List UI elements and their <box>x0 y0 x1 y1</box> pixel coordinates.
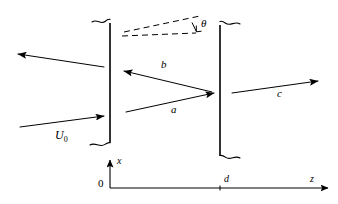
reflected-arrow-line <box>18 54 104 67</box>
physics-diagram: U0 b a c θ x z 0 <box>0 0 338 204</box>
arrow-c-label: c <box>277 87 282 99</box>
left-barrier <box>90 19 110 145</box>
dashed-lower-line <box>122 33 196 36</box>
right-barrier-top-break-icon <box>220 21 240 24</box>
reflected-arrow <box>18 54 104 67</box>
left-barrier-top-break-icon <box>92 19 110 22</box>
diagram-canvas: U0 b a c θ x z 0 <box>0 0 338 204</box>
x-axis-label: x <box>116 155 122 166</box>
z-axis-label: z <box>309 173 314 184</box>
incident-arrow-line <box>20 116 104 127</box>
d-position-label: d <box>224 173 230 184</box>
coordinate-axes: x z 0 d <box>98 155 328 191</box>
arrow-b: b <box>124 58 212 92</box>
arrow-b-line <box>124 71 212 92</box>
arrow-c-line <box>232 81 318 93</box>
arrow-b-label: b <box>161 58 167 70</box>
origin-label: 0 <box>98 177 104 189</box>
arrow-c: c <box>232 81 318 99</box>
angle-construction <box>122 16 202 36</box>
angle-theta-label: θ <box>201 17 207 29</box>
right-barrier-bottom-break-icon <box>220 155 240 158</box>
arrow-a-label: a <box>171 103 177 115</box>
incident-arrow: U0 <box>20 116 104 144</box>
arrow-a: a <box>126 93 214 115</box>
dashed-upper-line <box>124 16 200 32</box>
arrow-a-line <box>126 93 214 112</box>
right-barrier <box>220 21 240 158</box>
incident-label: U0 <box>55 128 68 144</box>
left-barrier-bottom-break-icon <box>90 143 110 146</box>
